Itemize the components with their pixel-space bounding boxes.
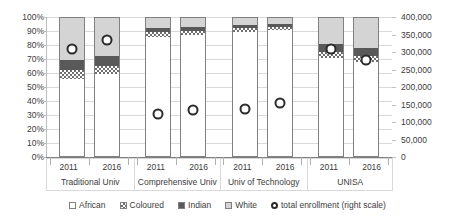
x-axis-tick xyxy=(50,157,51,165)
y-axis-tick-label: 20% xyxy=(0,125,44,134)
legend-item[interactable]: African xyxy=(69,200,105,210)
category-year-label: 2016 xyxy=(350,161,393,173)
y2-axis-tick-label: 0 xyxy=(401,153,453,162)
total-enrollment-marker[interactable] xyxy=(188,105,199,116)
legend-item[interactable]: Coloured xyxy=(120,200,165,210)
chart-legend: AfricanColouredIndianWhitetotal enrollme… xyxy=(0,196,455,214)
bar-segment-coloured[interactable] xyxy=(180,31,206,35)
y2-axis-tick-label: 400,000 xyxy=(401,13,453,22)
y2-axis-tick-mark xyxy=(392,70,396,71)
circle-marker-icon xyxy=(271,202,278,209)
category-year-label: 2016 xyxy=(264,161,307,173)
legend-item[interactable]: total enrollment (right scale) xyxy=(271,200,386,210)
bar-segment-white[interactable] xyxy=(267,17,293,24)
bar-segment-indian[interactable] xyxy=(145,28,171,32)
category-group: 20112016Traditional Univ xyxy=(47,159,134,190)
stacked-bar[interactable] xyxy=(145,17,171,157)
legend-label: White xyxy=(235,200,257,210)
x-axis-tick xyxy=(262,157,263,165)
bar-segment-coloured[interactable] xyxy=(145,32,171,36)
bar-segment-indian[interactable] xyxy=(267,24,293,27)
x-axis-tick xyxy=(176,157,177,165)
total-enrollment-marker[interactable] xyxy=(66,43,77,54)
y-axis-tick-label: 30% xyxy=(0,111,44,120)
checkered-square-swatch xyxy=(120,202,127,209)
bar-segment-indian[interactable] xyxy=(94,56,120,66)
bar-segment-african[interactable] xyxy=(180,35,206,157)
bar-segment-coloured[interactable] xyxy=(59,70,85,78)
category-year-label: 2011 xyxy=(47,161,90,173)
x-axis-tick xyxy=(223,157,224,165)
total-enrollment-marker[interactable] xyxy=(326,43,337,54)
stacked-bar[interactable] xyxy=(353,17,379,157)
y2-axis-tick-mark xyxy=(392,35,396,36)
bar-segment-white[interactable] xyxy=(318,17,344,44)
legend-label: African xyxy=(79,200,105,210)
bar-segment-white[interactable] xyxy=(145,17,171,28)
category-group: 20112016Univ of Technology xyxy=(220,159,307,190)
category-group-label: Univ of Technology xyxy=(221,176,307,188)
x-axis-tick xyxy=(349,157,350,165)
bar-segment-african[interactable] xyxy=(353,62,379,157)
legend-item[interactable]: White xyxy=(225,200,257,210)
category-group: 20112016Comprehensive Univ xyxy=(134,159,221,190)
y2-axis-tick-mark xyxy=(392,105,396,106)
y2-axis-tick-label: 350,000 xyxy=(401,31,453,40)
y-axis-tick-label: 50% xyxy=(0,83,44,92)
y-axis-tick-label: 40% xyxy=(0,97,44,106)
total-enrollment-marker[interactable] xyxy=(361,54,372,65)
total-enrollment-marker[interactable] xyxy=(101,35,112,46)
stacked-bar[interactable] xyxy=(267,17,293,157)
bar-segment-african[interactable] xyxy=(145,37,171,157)
bar-segment-white[interactable] xyxy=(180,17,206,27)
total-enrollment-marker[interactable] xyxy=(274,98,285,109)
bar-segment-coloured[interactable] xyxy=(267,27,293,30)
bar-segment-coloured[interactable] xyxy=(232,28,258,32)
bar-segment-african[interactable] xyxy=(267,30,293,157)
bar-segment-indian[interactable] xyxy=(59,60,85,70)
y2-axis-tick-mark xyxy=(392,52,396,53)
y-axis-tick-label: 0% xyxy=(0,153,44,162)
y2-axis-tick-label: 50,000 xyxy=(401,136,453,145)
category-group-label: UNISA xyxy=(308,176,394,188)
y2-axis-tick-label: 250,000 xyxy=(401,66,453,75)
y2-axis-tick-label: 200,000 xyxy=(401,83,453,92)
category-year-label: 2016 xyxy=(177,161,220,173)
stacked-bar[interactable] xyxy=(180,17,206,157)
y2-axis-tick-mark xyxy=(392,140,396,141)
legend-label: Coloured xyxy=(130,200,165,210)
y2-axis-tick-label: 100,000 xyxy=(401,118,453,127)
light-square-swatch xyxy=(225,202,232,209)
y2-axis-tick-mark xyxy=(392,122,396,123)
y-axis-tick-label: 70% xyxy=(0,55,44,64)
bar-segment-white[interactable] xyxy=(353,17,379,48)
bar-segment-indian[interactable] xyxy=(232,25,258,28)
stacked-bar[interactable] xyxy=(318,17,344,157)
x-axis-tick xyxy=(301,157,302,165)
legend-label: Indian xyxy=(188,200,211,210)
stacked-bar[interactable] xyxy=(59,17,85,157)
legend-label: total enrollment (right scale) xyxy=(281,200,386,210)
bar-segment-african[interactable] xyxy=(59,79,85,157)
bar-segment-african[interactable] xyxy=(318,58,344,157)
legend-item[interactable]: Indian xyxy=(178,200,211,210)
bar-segment-indian[interactable] xyxy=(180,27,206,31)
stacked-bar-chart: 0%10%20%30%40%50%60%70%80%90%100% 050,00… xyxy=(0,0,455,223)
x-axis-tick xyxy=(310,157,311,165)
dark-square-swatch xyxy=(178,202,185,209)
y-axis-tick-label: 100% xyxy=(0,13,44,22)
total-enrollment-marker[interactable] xyxy=(153,109,164,120)
category-axis: 20112016Traditional Univ20112016Comprehe… xyxy=(46,158,393,191)
y2-axis-tick-mark xyxy=(392,87,396,88)
category-group-label: Traditional Univ xyxy=(47,176,134,188)
total-enrollment-marker[interactable] xyxy=(239,103,250,114)
bar-segment-white[interactable] xyxy=(232,17,258,25)
bar-segment-african[interactable] xyxy=(94,74,120,157)
bar-segment-african[interactable] xyxy=(232,32,258,157)
category-year-label: 2011 xyxy=(135,161,178,173)
x-axis-tick xyxy=(89,157,90,165)
bar-segment-coloured[interactable] xyxy=(94,66,120,74)
category-year-label: 2011 xyxy=(308,161,351,173)
category-group-label: Comprehensive Univ xyxy=(135,176,221,188)
stacked-bar[interactable] xyxy=(232,17,258,157)
